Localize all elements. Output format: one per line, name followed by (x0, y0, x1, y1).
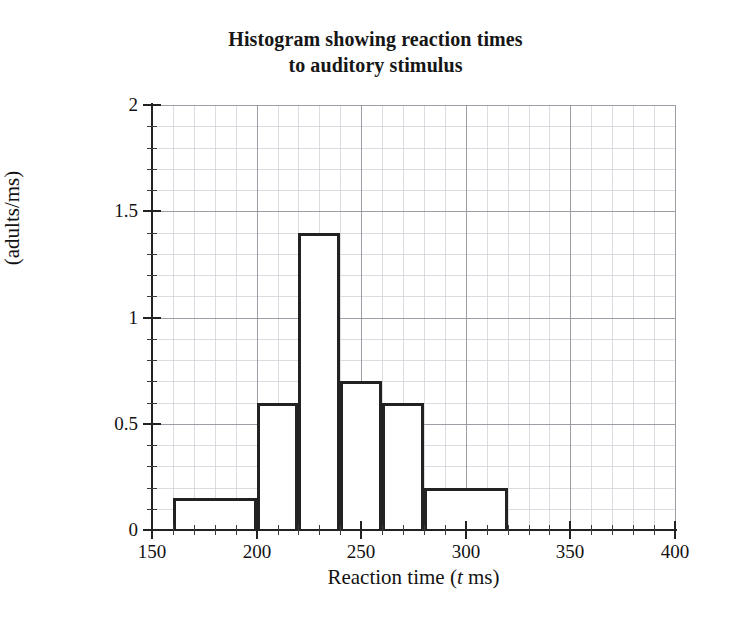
plot-area: 150200250300350400 (152, 105, 675, 530)
y-axis-tick-minor (147, 233, 157, 234)
histogram-bar (298, 233, 340, 530)
y-axis-tick-minor (147, 445, 157, 446)
y-axis-tick-label: 1 (0, 308, 138, 327)
y-axis-tick-label: 0 (0, 520, 138, 539)
y-axis-tick-minor (147, 190, 157, 191)
y-axis-tick-minor (147, 296, 157, 297)
x-axis-line (150, 529, 677, 531)
x-axis-tick-minor (487, 525, 488, 535)
x-axis-tick (569, 521, 571, 539)
y-axis-tick (143, 210, 161, 212)
x-axis-tick-minor (340, 525, 341, 535)
y-axis-tick-minor (147, 126, 157, 127)
x-axis-tick-label: 350 (556, 542, 585, 561)
x-axis-tick-minor (612, 525, 613, 535)
x-axis-tick-minor (654, 525, 655, 535)
y-axis-tick-minor (147, 148, 157, 149)
bar-layer (152, 105, 675, 530)
y-axis-tick-minor (147, 339, 157, 340)
x-axis-tick-label: 200 (243, 542, 272, 561)
x-axis-tick-minor (549, 525, 550, 535)
x-axis-tick-label: 400 (661, 542, 690, 561)
x-axis-tick-minor (591, 525, 592, 535)
gridline-vertical-major (675, 105, 676, 530)
chart-title-line-2: to auditory stimulus (0, 52, 751, 78)
x-axis-tick-minor (424, 525, 425, 535)
x-axis-tick-minor (298, 525, 299, 535)
x-axis-tick-minor (382, 525, 383, 535)
x-axis-tick (465, 521, 467, 539)
x-axis-tick-minor (236, 525, 237, 535)
x-axis-title-suffix: ms) (463, 565, 500, 589)
y-axis-tick-minor (147, 381, 157, 382)
y-axis-tick-label: 2 (0, 95, 138, 114)
chart-title-line-1: Histogram showing reaction times (228, 28, 522, 50)
y-axis-tick (143, 317, 161, 319)
y-axis-tick-minor (147, 254, 157, 255)
histogram-figure: Histogram showing reaction times to audi… (0, 0, 751, 619)
y-axis-tick (143, 104, 161, 106)
y-axis-tick-minor (147, 403, 157, 404)
y-axis-tick-minor (147, 509, 157, 510)
y-axis-title: Frequency density (adults/ms) (0, 0, 25, 453)
y-axis-tick-label: 0.5 (0, 414, 138, 433)
x-axis-tick (151, 521, 153, 539)
x-axis-title: Reaction time (t ms) (152, 565, 675, 590)
y-axis-tick-label: 1.5 (0, 201, 138, 220)
y-axis-title-line-2: (adults/ms) (0, 0, 25, 453)
x-axis-tick (360, 521, 362, 539)
y-axis-tick-minor (147, 360, 157, 361)
x-axis-tick-minor (403, 525, 404, 535)
x-axis-tick-minor (194, 525, 195, 535)
chart-title: Histogram showing reaction times to audi… (0, 26, 751, 78)
x-axis-tick-minor (173, 525, 174, 535)
histogram-bar (257, 403, 298, 530)
x-axis-tick-minor (445, 525, 446, 535)
x-axis-title-prefix: Reaction time ( (327, 565, 456, 589)
y-axis-tick-minor (147, 466, 157, 467)
x-axis-tick-minor (215, 525, 216, 535)
y-axis-tick-minor (147, 169, 157, 170)
x-axis-tick-minor (529, 525, 530, 535)
histogram-bar (382, 403, 424, 530)
x-axis-tick-label: 250 (347, 542, 376, 561)
x-axis-tick (256, 521, 258, 539)
x-axis-tick-minor (319, 525, 320, 535)
x-axis-tick-minor (633, 525, 634, 535)
y-axis-tick-minor (147, 275, 157, 276)
y-axis-tick-minor (147, 488, 157, 489)
x-axis-tick-minor (508, 525, 509, 535)
x-axis-tick-label: 150 (138, 542, 167, 561)
histogram-bar (340, 381, 382, 530)
y-axis-tick (143, 423, 161, 425)
x-axis-tick-minor (278, 525, 279, 535)
x-axis-tick (674, 521, 676, 539)
x-axis-tick-label: 300 (452, 542, 481, 561)
